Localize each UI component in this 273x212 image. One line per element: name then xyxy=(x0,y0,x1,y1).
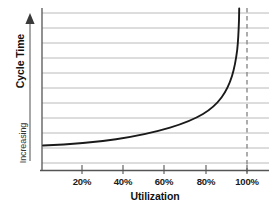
x-tick-label-60: 60% xyxy=(155,176,173,187)
x-axis-ticks xyxy=(82,165,247,174)
x-tick-label-40: 40% xyxy=(114,176,132,187)
gridlines xyxy=(42,13,269,163)
x-tick-label-100: 100% xyxy=(235,176,259,187)
y-axis-title: Cycle Time xyxy=(14,21,26,101)
x-axis-title: Utilization xyxy=(130,190,179,202)
cycle-time-curve xyxy=(43,9,239,146)
x-tick-label-80: 80% xyxy=(197,176,215,187)
chart-canvas xyxy=(0,0,273,212)
cycle-time-utilization-chart: 20% 40% 60% 80% 100% Utilization Cycle T… xyxy=(0,0,273,212)
y-axis-increasing-label: Increasing xyxy=(18,113,28,173)
x-tick-label-20: 20% xyxy=(73,176,91,187)
